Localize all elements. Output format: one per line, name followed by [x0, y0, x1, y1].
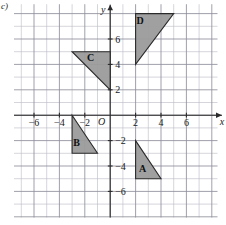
y-tick-label-2: 2 [115, 84, 120, 95]
x-tick-label-neg4: −4 [54, 117, 65, 128]
y-tick-label-neg4: −4 [115, 161, 126, 172]
y-tick-label-6: 6 [115, 34, 120, 45]
x-axis-name: x [219, 116, 225, 127]
y-axis-arrowhead [107, 5, 113, 11]
coordinate-grid-svg: −6−4−2246642−2−4−6Oxy ABCD [0, 0, 226, 225]
x-tick-label-neg2: −2 [79, 117, 90, 128]
y-tick-label-neg6: −6 [115, 186, 126, 197]
shape-label-c: C [87, 52, 94, 63]
y-tick-label-4: 4 [115, 59, 120, 70]
part-label: c) [1, 1, 8, 11]
shape-label-a: A [139, 163, 147, 174]
x-tick-label-2: 2 [133, 117, 138, 128]
origin-label: O [98, 116, 105, 127]
shape-label-b: B [73, 137, 80, 148]
y-axis-name: y [100, 4, 106, 15]
y-tick-label-neg2: −2 [115, 135, 126, 146]
x-tick-label-4: 4 [159, 117, 164, 128]
x-tick-label-6: 6 [184, 117, 189, 128]
shape-label-d: D [136, 15, 143, 26]
x-tick-label-neg6: −6 [29, 117, 40, 128]
coordinate-plane-figure: c) −6−4−2246642−2−4−6Oxy ABCD [0, 0, 226, 225]
tick-labels-layer: −6−4−2246642−2−4−6Oxy [29, 4, 225, 197]
